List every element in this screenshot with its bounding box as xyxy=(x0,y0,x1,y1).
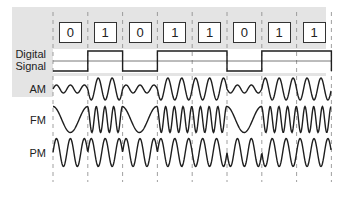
modulation-waveforms xyxy=(0,0,344,203)
